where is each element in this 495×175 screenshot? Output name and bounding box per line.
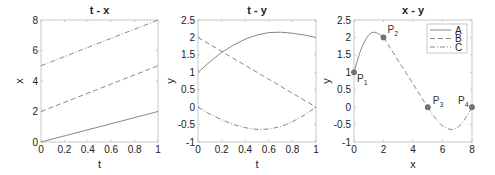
axes-frame [198,20,316,142]
y-tick-label: 2 [32,106,38,117]
y-tick-label: 1 [189,67,195,78]
y-tick-label: 0 [32,137,38,148]
x-tick-label: 6 [440,144,446,155]
x-axis-label: x [410,158,416,170]
y-tick-label: 0 [345,102,351,113]
chart-title: t - x [90,4,110,16]
legend: ABC [427,24,467,53]
point-marker-p1 [351,70,356,75]
axes-frame [41,20,158,142]
x-tick-label: 0.4 [81,144,95,155]
figure: 00.20.40.60.8102468t - xtx00.20.40.60.81… [0,0,495,175]
y-axis-label: x [13,78,25,84]
y-tick-label: 1 [345,67,351,78]
x-tick-label: 0 [195,144,201,155]
x-tick-label: 1 [155,144,161,155]
x-tick-label: 0.6 [104,144,118,155]
x-tick-label: 0.8 [285,144,299,155]
y-tick-label: 0 [189,102,195,113]
y-tick-label: -1 [186,137,195,148]
chart-3: 02468-1-0.500.511.522.5x - yxyP1P2P3P4AB… [320,4,475,170]
y-tick-label: -1 [342,137,351,148]
y-tick-label: 6 [32,45,38,56]
chart-title: t - y [247,4,267,16]
x-tick-label: 0.8 [128,144,142,155]
x-tick-label: 0 [38,144,44,155]
point-marker-p3 [425,105,430,110]
point-marker-p4 [469,105,474,110]
point-marker-p2 [381,35,386,40]
y-tick-label: 2 [189,32,195,43]
y-axis-label: y [164,78,176,84]
y-tick-label: 2.5 [181,15,195,26]
y-tick-label: -0.5 [334,119,352,130]
chart-title: x - y [402,4,425,16]
y-tick-label: -0.5 [178,119,196,130]
chart-2: 00.20.40.60.81-1-0.500.511.522.5t - yty [164,4,319,170]
y-tick-label: 2 [345,32,351,43]
legend-label-c: C [455,42,462,53]
y-tick-label: 2.5 [337,15,351,26]
x-tick-label: 1 [313,144,319,155]
x-tick-label: 2 [381,144,387,155]
y-tick-label: 0.5 [181,84,195,95]
x-tick-label: 0.2 [57,144,71,155]
x-tick-label: 4 [410,144,416,155]
x-tick-label: 0.6 [262,144,276,155]
y-tick-label: 1.5 [337,49,351,60]
x-tick-label: 8 [469,144,475,155]
x-tick-label: 0.4 [238,144,252,155]
y-axis-label: y [320,78,332,84]
y-tick-label: 1.5 [181,49,195,60]
y-tick-label: 4 [32,76,38,87]
y-tick-label: 8 [32,15,38,26]
x-axis-label: t [98,158,101,170]
y-tick-label: 0.5 [337,84,351,95]
x-tick-label: 0 [351,144,357,155]
x-tick-label: 0.2 [215,144,229,155]
x-axis-label: t [255,158,258,170]
chart-1: 00.20.40.60.8102468t - xtx [13,4,161,170]
